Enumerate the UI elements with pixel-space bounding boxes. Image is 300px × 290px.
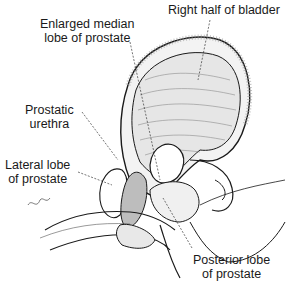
label-line: of prostate xyxy=(193,267,270,281)
label-posterior-lobe: Posterior lobe of prostate xyxy=(193,253,270,281)
label-line: Prostatic xyxy=(25,103,74,117)
label-line: urethra xyxy=(25,117,74,131)
label-line: of prostate xyxy=(5,172,70,186)
label-right-half-of-bladder: Right half of bladder xyxy=(168,3,280,17)
label-lateral-lobe: Lateral lobe of prostate xyxy=(5,158,70,186)
label-line: Posterior lobe xyxy=(193,253,270,267)
label-prostatic-urethra: Prostatic urethra xyxy=(25,103,74,131)
anatomical-illustration: Right half of bladder Enlarged median lo… xyxy=(0,0,300,290)
label-enlarged-median-lobe: Enlarged median lobe of prostate xyxy=(40,17,135,45)
label-line: lobe of prostate xyxy=(40,31,135,45)
label-line: Right half of bladder xyxy=(168,3,280,17)
label-line: Enlarged median xyxy=(40,17,135,31)
label-line: Lateral lobe xyxy=(5,158,70,172)
